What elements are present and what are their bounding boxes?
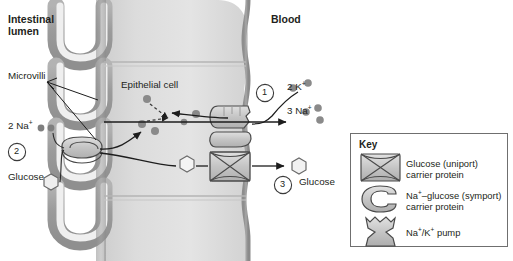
key-item-0-line1: Glucose (uniport)	[406, 158, 478, 169]
key-item-1-line2: carrier protein	[406, 201, 464, 212]
diagram-canvas: Intestinal lumen Blood Microvilli Epithe…	[0, 0, 513, 261]
key-item-0-line2: carrier protein	[406, 169, 464, 180]
key-icons	[0, 0, 513, 261]
key-item-1-line1: Na+–glucose (symport)	[406, 190, 501, 201]
key-item-1-rest: –glucose (symport)	[422, 190, 502, 201]
key-item-2-slash-k: /K	[422, 227, 431, 238]
key-item-2-na: Na	[406, 227, 418, 238]
key-glucose-uniport-carrier-icon	[361, 154, 400, 181]
key-na-glucose-symport-carrier-icon	[362, 186, 396, 212]
key-item-2-line1: Na+/K+ pump	[406, 227, 460, 238]
key-na-k-pump-icon	[366, 217, 395, 246]
key-item-1-na: Na	[406, 190, 418, 201]
key-item-2-pump: pump	[434, 227, 460, 238]
